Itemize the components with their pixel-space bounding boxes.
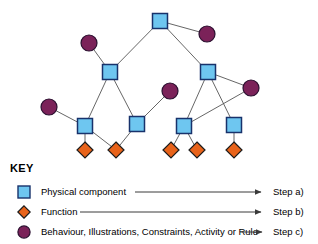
legend-row-behaviour: Behaviour, Illustrations, Constraints, A… — [0, 222, 318, 242]
square-icon — [17, 185, 31, 199]
node-layer — [41, 14, 259, 159]
step-b-arrow-icon — [80, 202, 270, 222]
node-behaviour[interactable] — [199, 26, 215, 42]
diagram-canvas: KEY Physical component Step a) Function … — [0, 0, 318, 244]
step-a-arrow-icon — [135, 182, 270, 202]
legend: KEY Physical component Step a) Function … — [0, 160, 318, 244]
step-c-arrow-icon — [240, 222, 270, 242]
node-function[interactable] — [108, 142, 124, 158]
node-function[interactable] — [77, 142, 93, 158]
node-physical-component[interactable] — [177, 119, 192, 134]
node-function[interactable] — [226, 142, 242, 158]
legend-step-a: Step a) — [273, 185, 304, 199]
legend-row-function: Function Step b) — [0, 202, 318, 222]
node-physical-component[interactable] — [227, 118, 242, 133]
node-physical-component[interactable] — [78, 119, 93, 134]
node-physical-component[interactable] — [103, 65, 118, 80]
node-behaviour[interactable] — [243, 80, 259, 96]
node-physical-component[interactable] — [130, 117, 145, 132]
legend-step-c: Step c) — [273, 225, 303, 239]
node-behaviour[interactable] — [81, 35, 97, 51]
node-behaviour[interactable] — [41, 99, 57, 115]
node-physical-component[interactable] — [153, 14, 168, 29]
node-function[interactable] — [163, 142, 179, 158]
node-physical-component[interactable] — [201, 65, 216, 80]
node-behaviour[interactable] — [162, 83, 178, 99]
legend-step-b: Step b) — [273, 205, 304, 219]
legend-label-function: Function — [41, 205, 77, 219]
node-function[interactable] — [189, 142, 205, 158]
circle-icon — [17, 225, 31, 239]
diamond-icon — [17, 205, 31, 219]
legend-row-physical-component: Physical component Step a) — [0, 182, 318, 202]
legend-label-physical-component: Physical component — [41, 185, 126, 199]
legend-label-behaviour: Behaviour, Illustrations, Constraints, A… — [41, 225, 258, 239]
legend-title: KEY — [10, 162, 34, 174]
